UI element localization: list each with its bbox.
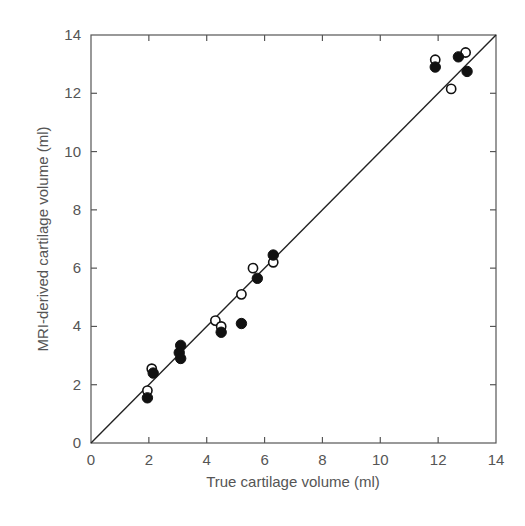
x-tick-label: 0 <box>87 451 95 468</box>
y-tick-label: 14 <box>64 26 81 43</box>
identity-line-path <box>91 35 496 443</box>
x-tick-label: 8 <box>318 451 326 468</box>
filled-circle-marker <box>453 52 463 62</box>
x-axis-title: True cartilage volume (ml) <box>206 473 380 490</box>
filled-circle-marker <box>268 250 278 260</box>
open-circle-marker <box>447 84 456 93</box>
filled-circle-marker <box>252 273 262 283</box>
y-tick-label: 0 <box>73 434 81 451</box>
y-axis-title: MRI-derived cartilage volume (ml) <box>34 126 51 351</box>
filled-circle-marker <box>142 393 152 403</box>
filled-circle-marker <box>236 318 246 328</box>
x-tick-label: 4 <box>203 451 211 468</box>
scatter-chart: 0246810121402468101214 True cartilage vo… <box>0 0 525 526</box>
identity-line <box>91 35 496 443</box>
y-tick-label: 8 <box>73 201 81 218</box>
filled-circle-marker <box>148 368 158 378</box>
open-circle-marker <box>248 264 257 273</box>
y-tick-label: 10 <box>64 143 81 160</box>
x-tick-label: 6 <box>260 451 268 468</box>
open-circle-marker <box>237 290 246 299</box>
y-tick-label: 4 <box>73 317 81 334</box>
y-tick-label: 2 <box>73 376 81 393</box>
x-tick-label: 14 <box>488 451 505 468</box>
filled-circle-marker <box>430 62 440 72</box>
x-tick-label: 2 <box>145 451 153 468</box>
filled-circle-marker <box>462 66 472 76</box>
filled-circle-marker <box>216 327 226 337</box>
x-tick-label: 12 <box>430 451 447 468</box>
filled-circle-marker <box>175 353 185 363</box>
y-tick-label: 6 <box>73 259 81 276</box>
x-tick-label: 10 <box>372 451 389 468</box>
y-tick-label: 12 <box>64 84 81 101</box>
